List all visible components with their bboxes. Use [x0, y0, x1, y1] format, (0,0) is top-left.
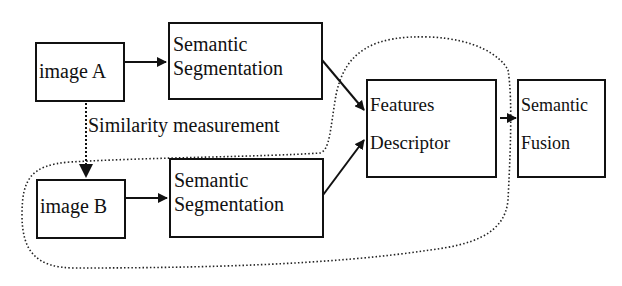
seg-a-line1: Semantic [173, 32, 247, 56]
image-b-box: image B [36, 179, 126, 239]
fusion-line1: Semantic [521, 93, 588, 117]
features-descriptor-box: Features Descriptor [366, 79, 497, 178]
features-line1: Features [370, 93, 434, 117]
arrow-segB-to-features [323, 140, 364, 195]
image-a-label: image A [39, 59, 106, 83]
seg-b-line2: Segmentation [174, 192, 284, 216]
semantic-segmentation-a-box: Semantic Segmentation [168, 22, 323, 100]
fusion-line2: Fusion [521, 131, 570, 155]
image-a-box: image A [35, 42, 125, 102]
seg-a-line2: Segmentation [173, 56, 283, 80]
semantic-fusion-box: Semantic Fusion [517, 79, 606, 178]
seg-b-line1: Semantic [174, 168, 248, 192]
features-line2: Descriptor [370, 131, 450, 155]
arrowhead-imageB [79, 164, 93, 178]
arrow-segA-to-features [322, 60, 364, 110]
image-b-label: image B [40, 194, 107, 218]
similarity-measurement-label: Similarity measurement [88, 113, 280, 137]
semantic-segmentation-b-box: Semantic Segmentation [169, 158, 324, 238]
